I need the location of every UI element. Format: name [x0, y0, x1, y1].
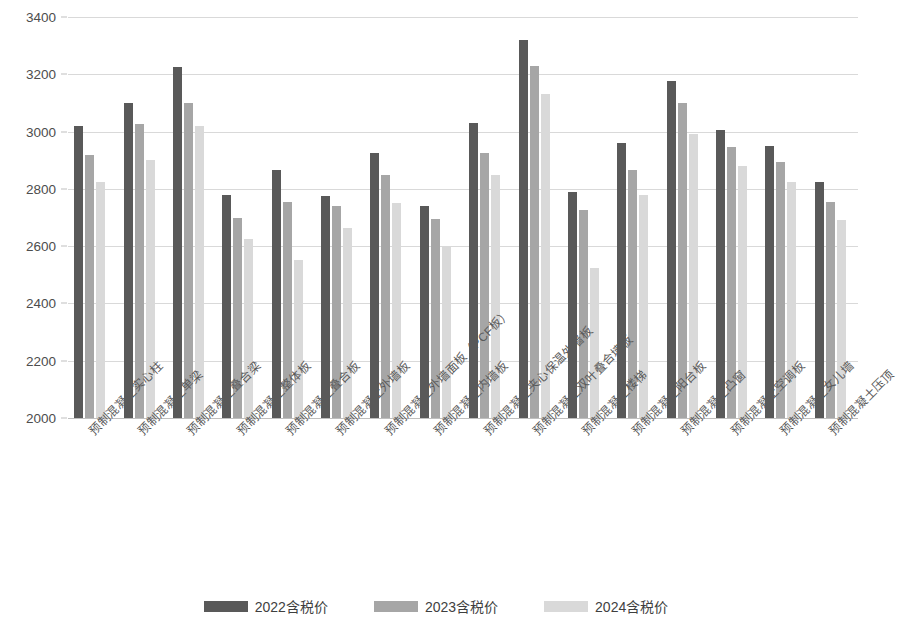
bar-group	[117, 17, 166, 418]
bar[interactable]	[381, 175, 390, 418]
bar[interactable]	[392, 203, 401, 418]
bar[interactable]	[469, 123, 478, 418]
bar[interactable]	[530, 66, 539, 418]
bar[interactable]	[244, 239, 253, 418]
bar-group	[562, 17, 611, 418]
bar[interactable]	[431, 219, 440, 418]
bar[interactable]	[568, 192, 577, 418]
bar[interactable]	[370, 153, 379, 418]
y-axis-tick-mark	[61, 188, 67, 189]
gridline	[68, 418, 858, 419]
bar-group	[463, 17, 512, 418]
bar[interactable]	[689, 134, 698, 418]
bar[interactable]	[96, 182, 105, 418]
bar[interactable]	[480, 153, 489, 418]
bar-group	[512, 17, 561, 418]
bar[interactable]	[146, 160, 155, 418]
bar-group	[266, 17, 315, 418]
y-axis-tick-mark	[61, 246, 67, 247]
bar[interactable]	[283, 202, 292, 418]
legend-color-swatch	[204, 601, 248, 612]
bar[interactable]	[541, 94, 550, 418]
y-axis-tick-mark	[61, 17, 67, 18]
bar[interactable]	[74, 126, 83, 418]
bar[interactable]	[272, 170, 281, 418]
bar[interactable]	[195, 126, 204, 418]
legend-label: 2024含税价	[595, 596, 668, 616]
y-axis-tick-label: 2000	[0, 411, 56, 426]
bar[interactable]	[135, 124, 144, 418]
bar[interactable]	[579, 210, 588, 418]
bar[interactable]	[667, 81, 676, 418]
bar[interactable]	[727, 147, 736, 418]
y-axis-tick-label: 3400	[0, 10, 56, 25]
y-axis-tick-label: 2600	[0, 239, 56, 254]
bar[interactable]	[716, 130, 725, 418]
bar[interactable]	[442, 246, 451, 418]
bar[interactable]	[184, 103, 193, 418]
legend-color-swatch	[544, 601, 588, 612]
bar[interactable]	[491, 175, 500, 418]
bar[interactable]	[639, 195, 648, 418]
bar[interactable]	[420, 206, 429, 418]
bar-group	[414, 17, 463, 418]
bar-group	[661, 17, 710, 418]
legend-item[interactable]: 2024含税价	[544, 596, 668, 616]
bar-group	[759, 17, 808, 418]
bar-group	[710, 17, 759, 418]
bar[interactable]	[222, 195, 231, 418]
y-axis-tick-mark	[61, 360, 67, 361]
y-axis-tick-label: 3200	[0, 67, 56, 82]
bar[interactable]	[765, 146, 774, 418]
bar[interactable]	[519, 40, 528, 418]
y-axis-tick-label: 2400	[0, 296, 56, 311]
bar[interactable]	[628, 170, 637, 418]
bar[interactable]	[815, 182, 824, 418]
bar[interactable]	[233, 218, 242, 419]
y-axis-tick-mark	[61, 303, 67, 304]
bar-group	[216, 17, 265, 418]
bar[interactable]	[787, 182, 796, 418]
bar[interactable]	[294, 260, 303, 418]
legend-item[interactable]: 2022含税价	[204, 596, 328, 616]
bar[interactable]	[343, 228, 352, 418]
bar-group	[68, 17, 117, 418]
legend-label: 2023含税价	[425, 596, 498, 616]
bar[interactable]	[173, 67, 182, 418]
bar[interactable]	[590, 268, 599, 418]
bar-group	[611, 17, 660, 418]
legend-label: 2022含税价	[255, 596, 328, 616]
bar[interactable]	[617, 143, 626, 418]
bar[interactable]	[332, 206, 341, 418]
bar[interactable]	[738, 166, 747, 418]
bar[interactable]	[837, 220, 846, 418]
bar[interactable]	[678, 103, 687, 418]
y-axis-tick-label: 3000	[0, 124, 56, 139]
bar[interactable]	[776, 162, 785, 418]
bar-group	[315, 17, 364, 418]
y-axis-tick-label: 2200	[0, 353, 56, 368]
bar[interactable]	[124, 103, 133, 418]
bar-group	[167, 17, 216, 418]
bar[interactable]	[826, 202, 835, 418]
legend-color-swatch	[374, 601, 418, 612]
chart-legend: 2022含税价2023含税价2024含税价	[0, 596, 872, 616]
bar[interactable]	[85, 155, 94, 419]
y-axis-tick-mark	[61, 74, 67, 75]
bar-group	[364, 17, 413, 418]
plot-area	[68, 17, 858, 418]
y-axis-tick-mark	[61, 131, 67, 132]
bar[interactable]	[321, 196, 330, 418]
y-axis-tick-mark	[61, 418, 67, 419]
bar-group	[809, 17, 858, 418]
y-axis-tick-label: 2800	[0, 181, 56, 196]
legend-item[interactable]: 2023含税价	[374, 596, 498, 616]
